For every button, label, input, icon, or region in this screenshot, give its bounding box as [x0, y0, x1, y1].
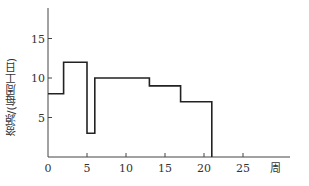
x-tick-label: 10: [119, 162, 133, 175]
plot-area: 0510152025周51015: [0, 0, 309, 186]
x-tick-label: 15: [158, 162, 172, 175]
x-tick-label: 20: [197, 162, 211, 175]
x-axis-label: 周: [270, 162, 281, 175]
y-tick-label: 5: [38, 112, 45, 125]
y-tick-label: 10: [31, 72, 45, 85]
resource-step-line: [48, 62, 212, 157]
y-axis-label: 资源/(每周工日): [6, 58, 20, 136]
resource-step-chart: 0510152025周51015 资源/(每周工日): [0, 0, 309, 186]
x-tick-label: 0: [45, 162, 52, 175]
y-tick-label: 15: [31, 33, 45, 46]
x-tick-label: 25: [236, 162, 250, 175]
x-tick-label: 5: [84, 162, 91, 175]
